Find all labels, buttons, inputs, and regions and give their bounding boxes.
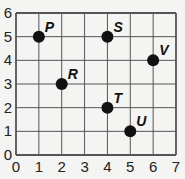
y-tick-label: 6 <box>4 4 12 21</box>
point-label: P <box>45 19 55 35</box>
x-axis-tick-labels: 01234567 <box>12 158 180 175</box>
point-label: V <box>159 42 170 58</box>
point-marker <box>101 31 113 43</box>
x-tick-label: 6 <box>149 158 157 175</box>
x-tick-label: 5 <box>126 158 134 175</box>
point-marker <box>101 102 113 114</box>
point-t: T <box>101 90 123 114</box>
point-marker <box>124 125 136 137</box>
x-tick-label: 0 <box>12 158 20 175</box>
point-label: T <box>113 90 123 106</box>
coordinate-grid-chart: 01234567 0123456 PSVRTU <box>0 0 185 179</box>
point-marker <box>33 31 45 43</box>
y-tick-label: 5 <box>4 28 12 45</box>
point-label: U <box>136 113 147 129</box>
point-r: R <box>56 66 79 90</box>
point-marker <box>147 54 159 66</box>
x-tick-label: 4 <box>103 158 111 175</box>
point-marker <box>56 78 68 90</box>
point-v: V <box>147 42 170 66</box>
y-tick-label: 3 <box>4 75 12 92</box>
point-u: U <box>124 113 147 137</box>
x-tick-label: 1 <box>35 158 43 175</box>
x-tick-label: 3 <box>80 158 88 175</box>
y-axis-tick-labels: 0123456 <box>4 4 12 163</box>
y-tick-label: 4 <box>4 51 12 68</box>
x-tick-label: 7 <box>172 158 180 175</box>
y-tick-label: 0 <box>4 146 12 163</box>
point-s: S <box>101 19 123 43</box>
y-tick-label: 1 <box>4 122 12 139</box>
point-p: P <box>33 19 55 43</box>
point-label: S <box>113 19 123 35</box>
y-tick-label: 2 <box>4 99 12 116</box>
point-label: R <box>68 66 79 82</box>
x-tick-label: 2 <box>58 158 66 175</box>
